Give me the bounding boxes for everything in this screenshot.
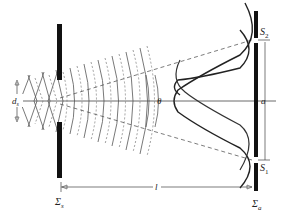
aperture-screen-label: Σa bbox=[251, 198, 262, 212]
slit-separation-label: a bbox=[261, 96, 266, 106]
aperture-screen-mid bbox=[254, 43, 258, 157]
source-screen-bottom bbox=[57, 122, 62, 178]
ray-to-s2 bbox=[60, 40, 252, 98]
angle-label: θ bbox=[157, 96, 162, 106]
slit-s2-label: S2 bbox=[260, 26, 269, 40]
ray-to-s1 bbox=[60, 104, 252, 160]
aperture-screen-bottom bbox=[254, 163, 258, 191]
intensity-curve-second bbox=[176, 60, 249, 170]
source-screen-label: Σs bbox=[54, 196, 64, 210]
aperture-screen-top bbox=[254, 11, 258, 38]
slit-s1-label: S1 bbox=[260, 162, 269, 176]
coherence-diagram: θ a S2 S1 ds l Σs Σa bbox=[0, 0, 283, 215]
source-screen-top bbox=[57, 24, 62, 80]
